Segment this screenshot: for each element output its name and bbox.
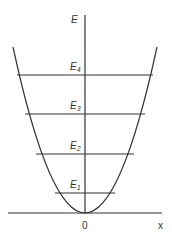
- level-e3-label: E3: [70, 100, 81, 112]
- x-axis-label: x: [158, 220, 163, 231]
- origin-label: 0: [82, 220, 88, 231]
- energy-level-diagram: E E4 E3 E2 E1 0 x: [0, 0, 172, 236]
- level-e2-label: E2: [70, 140, 81, 152]
- level-e1-label: E1: [70, 179, 81, 191]
- level-e4-label: E4: [70, 61, 81, 73]
- energy-axis-label: E: [71, 14, 78, 25]
